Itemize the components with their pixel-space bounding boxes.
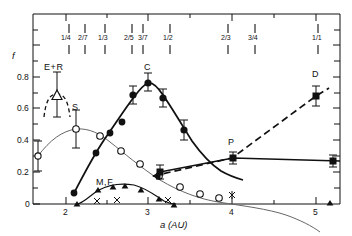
scatter-plot-canvas <box>0 0 352 236</box>
cross-marker <box>229 191 235 199</box>
plot-frame <box>33 14 340 204</box>
x-tick-label-2: 2 <box>63 208 68 217</box>
series-er <box>44 72 70 117</box>
series-d <box>153 86 329 176</box>
x-tick-label-3: 3 <box>145 208 150 217</box>
x-tick-label-4: 4 <box>229 208 234 217</box>
resonance-label-2-3: 2/3 <box>221 34 231 41</box>
x-axis-title: a (AU) <box>160 220 187 230</box>
cross-marker <box>94 198 100 204</box>
resonance-label-1-1: 1/1 <box>312 34 322 41</box>
series-p <box>152 152 340 180</box>
x-axis-ticks <box>66 197 316 204</box>
resonance-label-3-7: 3/7 <box>138 34 148 41</box>
mf-marker <box>171 202 178 207</box>
y-tick-label-0.6: 0.6 <box>17 104 29 113</box>
series-p-errorbars <box>156 152 337 179</box>
series-p-line <box>160 158 340 172</box>
y-tick-label-0.2: 0.2 <box>17 168 29 177</box>
series-s-markers <box>35 126 222 202</box>
top-axis-ticks <box>66 14 316 21</box>
resonance-label-3-4: 3/4 <box>248 34 258 41</box>
y-tick-label-0.8: 0.8 <box>17 73 29 82</box>
series-c-errorbars <box>129 73 188 140</box>
x-tick-label-5: 5 <box>313 208 318 217</box>
y-tick-label-0: 0 <box>25 200 30 209</box>
series-label-d: D <box>312 70 319 79</box>
series-label-mf: M,F <box>96 178 113 187</box>
resonance-label-1-3: 1/3 <box>98 34 108 41</box>
series-s-errorbars <box>34 110 80 171</box>
series-d-markers <box>313 93 320 100</box>
series-label-er: E+R <box>44 63 64 72</box>
extra-cross-markers <box>94 191 235 204</box>
mf-marker <box>327 200 334 205</box>
er-marker <box>52 90 62 100</box>
y-tick-label-0.4: 0.4 <box>17 136 29 145</box>
resonance-label-1-2: 1/2 <box>163 34 173 41</box>
resonance-label-2-7: 2/7 <box>78 34 88 41</box>
cross-marker <box>114 197 120 203</box>
y-axis-title: f <box>12 51 15 61</box>
series-label-c: C <box>144 63 151 72</box>
series-d-line <box>153 88 329 176</box>
mf-marker <box>138 187 145 192</box>
y-axis-ticks <box>33 30 40 204</box>
resonance-label-1-4: 1/4 <box>61 34 71 41</box>
series-c-markers <box>71 79 188 196</box>
figure-container: f 0.8 0.6 0.4 0.2 0 2 3 4 5 a (AU) 1/4 2… <box>0 0 352 236</box>
series-label-s: S <box>72 103 79 112</box>
resonance-label-2-5: 2/5 <box>124 34 134 41</box>
series-label-p: P <box>228 138 235 147</box>
